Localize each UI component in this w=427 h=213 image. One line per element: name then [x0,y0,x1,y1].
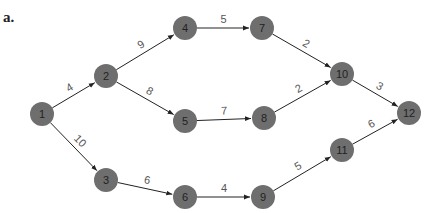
node-label: 9 [260,191,266,203]
edge-weight-label: 2 [293,81,304,94]
edge-4-7: 5 [197,13,249,28]
node-11: 11 [330,138,354,162]
edge-10-12: 3 [352,79,397,106]
node-12: 12 [397,101,421,125]
edge-weight-label: 6 [143,173,152,186]
edge-6-9: 4 [197,182,250,197]
node-5: 5 [173,109,197,133]
edge-arrow [197,118,251,120]
node-4: 4 [173,16,197,40]
node-label: 12 [403,107,415,119]
edge-weight-label: 10 [72,132,89,149]
edge-weight-label: 8 [144,84,155,97]
edge-weight-label: 6 [366,117,377,130]
edge-weight-label: 9 [135,38,146,51]
node-label: 3 [103,174,109,186]
node-label: 5 [182,115,188,127]
edge-8-10: 2 [274,80,330,112]
node-3: 3 [94,168,118,192]
node-label: 7 [259,22,265,34]
node-label: 2 [103,70,109,82]
edge-5-8: 7 [197,104,251,120]
edge-weight-label: 2 [301,36,312,49]
graph-svg: 41098657422536 123456789101112 [0,0,427,213]
node-8: 8 [252,106,276,130]
edge-7-10: 2 [272,34,330,68]
node-2: 2 [94,64,118,88]
edge-arrow [353,119,398,144]
edge-9-11: 5 [273,157,331,191]
edge-arrow [116,35,174,70]
edge-1-2: 4 [52,81,95,108]
edge-weight-label: 7 [221,104,228,116]
edge-weight-label: 4 [64,81,75,94]
edge-arrow [52,83,95,108]
node-7: 7 [250,16,274,40]
edge-arrow [50,123,97,171]
edge-arrow [272,34,330,68]
node-label: 10 [336,68,348,80]
edge-weight-label: 3 [374,79,385,92]
node-label: 8 [261,112,267,124]
edge-arrow [116,82,173,115]
edge-arrow [274,80,330,112]
node-6: 6 [173,185,197,209]
edge-arrow [352,80,397,106]
edge-1-3: 10 [50,123,97,171]
edge-weight-label: 4 [221,182,227,194]
node-10: 10 [330,62,354,86]
edge-11-12: 6 [353,117,398,144]
node-label: 6 [182,191,188,203]
edge-2-4: 9 [116,35,174,70]
edge-arrow [273,157,331,191]
node-1: 1 [30,102,54,126]
edge-weight-label: 5 [220,13,226,25]
node-label: 11 [336,144,347,156]
edge-2-5: 8 [116,82,173,115]
node-9: 9 [251,185,275,209]
network-diagram: a. 41098657422536 123456789101112 [0,0,427,213]
node-label: 4 [182,22,188,34]
edge-3-6: 6 [118,173,173,194]
node-label: 1 [39,108,45,120]
edge-weight-label: 5 [292,159,303,172]
